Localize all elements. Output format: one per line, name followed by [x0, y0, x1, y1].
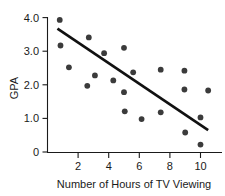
axes-group — [47, 17, 222, 153]
data-point — [66, 64, 72, 70]
data-point — [130, 69, 136, 75]
data-point — [198, 142, 204, 148]
data-point — [158, 109, 164, 115]
x-tick-label: 2 — [75, 160, 81, 172]
x-tick-group — [78, 153, 200, 159]
data-point — [84, 83, 90, 89]
data-point — [182, 68, 188, 74]
trend-line — [57, 29, 208, 130]
plot-area: 01.02.03.04.0 246810 GPA Number of Hours… — [0, 0, 225, 196]
y-tick-label: 1.0 — [24, 112, 39, 124]
x-tick-label: 10 — [194, 160, 206, 172]
data-point — [139, 116, 145, 122]
y-tick-label: 2.0 — [24, 79, 39, 91]
data-point — [121, 89, 127, 95]
y-tick-label: 4.0 — [24, 12, 39, 24]
data-point — [158, 67, 164, 73]
data-point — [122, 108, 128, 114]
x-tick-label: 8 — [167, 160, 173, 172]
y-tick-label-group: 01.02.03.04.0 — [24, 12, 39, 158]
x-tick-label: 6 — [136, 160, 142, 172]
data-point — [110, 78, 116, 84]
data-point — [101, 50, 107, 56]
data-point — [182, 130, 188, 136]
x-tick-label-group: 246810 — [75, 160, 207, 172]
y-tick-label: 0 — [33, 146, 39, 158]
y-tick-label: 3.0 — [24, 45, 39, 57]
data-point — [182, 87, 188, 93]
data-point-group — [57, 17, 211, 147]
x-tick-label: 4 — [106, 160, 112, 172]
data-point — [205, 88, 211, 94]
x-axis-title: Number of Hours of TV Viewing — [57, 178, 211, 190]
data-point — [198, 114, 204, 120]
y-axis-title: GPA — [8, 76, 20, 99]
data-point — [86, 35, 92, 41]
scatter-chart: 01.02.03.04.0 246810 GPA Number of Hours… — [0, 0, 225, 196]
data-point — [58, 43, 64, 49]
y-tick-group — [43, 18, 48, 152]
data-point — [92, 72, 98, 78]
data-point — [121, 45, 127, 51]
data-point — [57, 17, 63, 23]
